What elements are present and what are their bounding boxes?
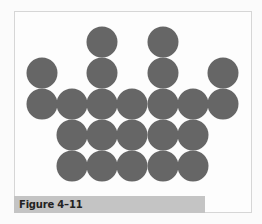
circle-r1-c3 [87, 27, 118, 58]
caption-bar: Figure 4–11 [14, 196, 205, 213]
circle-r5-c4 [117, 151, 148, 182]
circle-r2-c1 [27, 58, 58, 89]
circle-r5-c5 [148, 151, 179, 182]
circle-r2-c3 [87, 58, 118, 89]
circle-r1-c5 [148, 27, 179, 58]
circle-r2-c5 [148, 58, 179, 89]
circle-r4-c3 [87, 120, 118, 151]
circle-r3-c6 [178, 89, 209, 120]
circle-r3-c1 [27, 89, 58, 120]
circle-r4-c6 [178, 120, 209, 151]
circle-r3-c3 [87, 89, 118, 120]
circle-r2-c7 [208, 58, 239, 89]
circle-r4-c5 [148, 120, 179, 151]
circle-r4-c2 [57, 120, 88, 151]
figure-caption: Figure 4–11 [19, 199, 82, 210]
circle-group [27, 27, 239, 182]
circle-r5-c2 [57, 151, 88, 182]
circle-r4-c4 [117, 120, 148, 151]
circle-r5-c6 [178, 151, 209, 182]
circle-r3-c4 [117, 89, 148, 120]
circle-r3-c5 [148, 89, 179, 120]
circle-r3-c7 [208, 89, 239, 120]
circle-r5-c3 [87, 151, 118, 182]
circle-r3-c2 [57, 89, 88, 120]
circle-arrangement-diagram [0, 0, 262, 224]
